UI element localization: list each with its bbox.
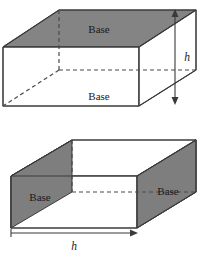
- prism-bottom-base-label-right: Base: [157, 185, 179, 197]
- prism-bottom-height-label: h: [71, 240, 77, 252]
- prism-top-front-face: [3, 47, 139, 106]
- prism-top-base-label-lower: Base: [88, 90, 110, 102]
- prism-top-height-label: h: [184, 51, 190, 63]
- geometry-figure-prism-bases: Base Base h Base Base: [0, 0, 201, 257]
- prism-bottom-base-label-left: Base: [29, 191, 51, 203]
- prism-diagram-svg: Base Base h Base Base: [0, 0, 201, 257]
- prism-top-base-label-upper: Base: [88, 23, 110, 35]
